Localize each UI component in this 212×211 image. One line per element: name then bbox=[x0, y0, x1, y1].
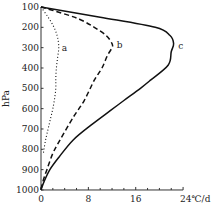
y-tick-label: 1000 bbox=[16, 185, 39, 195]
y-tick-label: 800 bbox=[22, 144, 39, 154]
y-tick-label: 900 bbox=[22, 165, 39, 175]
axes bbox=[41, 7, 183, 190]
x-tick-label: 16 bbox=[130, 194, 142, 204]
x-tick-label: 8 bbox=[85, 194, 91, 204]
curve-label-a: a bbox=[62, 43, 68, 53]
y-tick-label: 400 bbox=[22, 63, 39, 73]
curve-a bbox=[41, 7, 59, 153]
y-tick-label: 700 bbox=[22, 124, 39, 134]
curve-b bbox=[41, 7, 113, 190]
pressure-heating-rate-chart: 1002003004005006007008009001000081624℃/d… bbox=[0, 0, 212, 211]
curve-label-c: c bbox=[178, 41, 183, 51]
y-tick-label: 100 bbox=[22, 2, 39, 12]
x-tick-label: 0 bbox=[38, 194, 44, 204]
y-tick-label: 600 bbox=[22, 104, 39, 114]
y-tick-label: 200 bbox=[22, 22, 39, 32]
curves bbox=[41, 7, 174, 190]
x-tick-label: 24℃/d bbox=[180, 194, 211, 204]
y-tick-label: 500 bbox=[22, 83, 39, 93]
curve-label-b: b bbox=[117, 40, 123, 50]
y-tick-label: 300 bbox=[22, 43, 39, 53]
curve-c bbox=[41, 7, 174, 190]
y-axis-title: hPa bbox=[1, 89, 11, 106]
